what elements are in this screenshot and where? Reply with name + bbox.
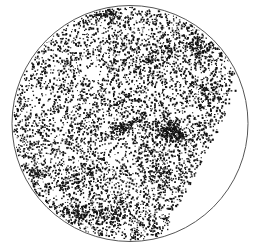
- sky-map-plot: [0, 0, 253, 243]
- scatter-points: [13, 7, 237, 241]
- galaxy-sky-map-chart: [0, 0, 253, 243]
